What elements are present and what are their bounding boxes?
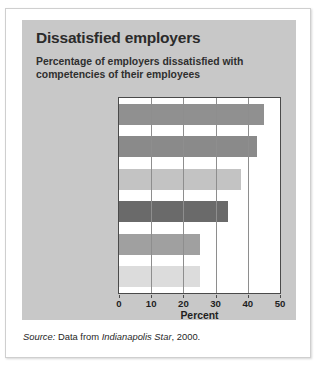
source-text-before: Data from xyxy=(55,331,101,342)
source-text-after: , 2000. xyxy=(172,331,201,342)
bar-row: Critical Thinking xyxy=(119,136,280,157)
bar xyxy=(119,201,228,222)
gridline xyxy=(248,98,249,293)
chart-subtitle: Percentage of employers dissatisfied wit… xyxy=(36,55,278,82)
source-note: Source: Data from Indianapolis Star, 200… xyxy=(23,331,200,342)
x-tick-label: 50 xyxy=(269,298,291,309)
bar xyxy=(119,234,200,255)
gridline xyxy=(183,98,184,293)
plot-area: Written CommunicationCritical ThinkingPl… xyxy=(118,97,281,294)
gridline xyxy=(151,98,152,293)
chart-panel: Dissatisfied employers Percentage of emp… xyxy=(22,20,296,320)
x-tick-label: 0 xyxy=(108,298,130,309)
chart-title: Dissatisfied employers xyxy=(36,29,200,47)
plot-wrapper: Written CommunicationCritical ThinkingPl… xyxy=(118,97,281,294)
x-axis: 01020304050 xyxy=(118,295,281,311)
source-publication: Indianapolis Star xyxy=(102,331,172,342)
bar-row: Marketing/ Sales xyxy=(119,234,280,255)
gridline xyxy=(280,98,281,293)
bar-row: Planning xyxy=(119,169,280,190)
x-tick-label: 10 xyxy=(140,298,162,309)
bar xyxy=(119,169,241,190)
x-axis-title: Percent xyxy=(118,310,281,321)
bar xyxy=(119,136,257,157)
bar-row: Oral Communication xyxy=(119,201,280,222)
x-tick-label: 20 xyxy=(172,298,194,309)
bar xyxy=(119,104,264,125)
gridline xyxy=(216,98,217,293)
bar-row: Written Communication xyxy=(119,104,280,125)
figure-card: Dissatisfied employers Percentage of emp… xyxy=(5,8,311,358)
x-tick-label: 40 xyxy=(237,298,259,309)
source-label: Source: xyxy=(23,331,55,342)
x-tick-label: 30 xyxy=(205,298,227,309)
bar xyxy=(119,266,200,287)
bar-row: Public Relations xyxy=(119,266,280,287)
